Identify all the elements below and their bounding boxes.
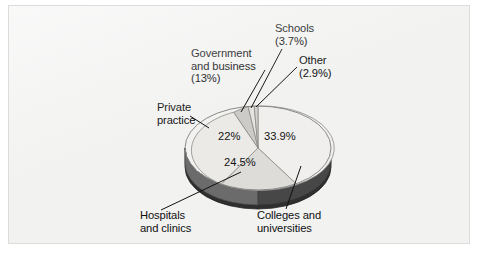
label-schools-line2: (3.7%) xyxy=(275,35,314,48)
label-colleges-and-universities: Colleges and universities xyxy=(257,209,321,234)
slice-value-hospitals-and-clinics: 24.5% xyxy=(224,156,256,168)
label-government-line1: Government xyxy=(191,47,256,60)
label-colleges-line1: Colleges and xyxy=(257,209,321,222)
slice-value-private-practice: 22% xyxy=(218,130,240,142)
label-other-line1: Other xyxy=(299,54,331,67)
label-private-line2: practice xyxy=(157,114,195,127)
label-hospitals-line2: and clinics xyxy=(140,222,191,235)
chart-card: Government and business (13%) Schools (3… xyxy=(8,5,470,244)
label-private-line1: Private xyxy=(157,101,195,114)
label-schools: Schools (3.7%) xyxy=(275,22,314,47)
slice-value-colleges-and-universities: 33.9% xyxy=(264,130,296,142)
label-government-line3: (13%) xyxy=(191,72,256,85)
label-schools-line1: Schools xyxy=(275,22,314,35)
label-private-practice: Private practice xyxy=(157,101,195,126)
pie-top-face xyxy=(185,106,334,191)
pie-chart-graphic xyxy=(9,6,471,245)
label-colleges-line2: universities xyxy=(257,222,321,235)
label-other: Other (2.9%) xyxy=(299,54,331,79)
label-hospitals-line1: Hospitals xyxy=(140,209,191,222)
label-government-and-business: Government and business (13%) xyxy=(191,47,256,85)
label-government-line2: and business xyxy=(191,60,256,73)
label-hospitals-and-clinics: Hospitals and clinics xyxy=(140,209,191,234)
label-other-line2: (2.9%) xyxy=(299,67,331,80)
